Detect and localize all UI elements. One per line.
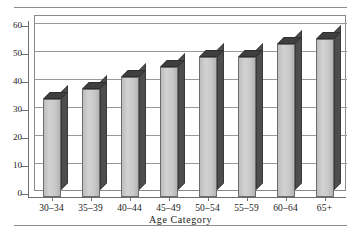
bar-40–44: [121, 70, 139, 197]
x-tick-label-40–44: 40–44: [108, 203, 152, 214]
y-tick-label-60: 60: [0, 21, 22, 30]
bar-front-face: [238, 57, 256, 197]
y-tick-60: [21, 26, 28, 27]
x-tick-40–44: [130, 197, 131, 201]
y-tick-label-0: 0: [0, 189, 22, 198]
x-axis-line: [28, 197, 346, 198]
y-tick-label-50: 50: [0, 49, 22, 58]
x-tick-55–59: [247, 197, 248, 201]
top-divider-rule: [14, 7, 347, 8]
bar-65+: [316, 32, 334, 197]
gridline-60: [35, 23, 347, 24]
x-tick-45–49: [169, 197, 170, 201]
bar-side-face: [334, 25, 341, 190]
y-tick-30: [21, 110, 28, 111]
bar-side-face: [178, 53, 185, 190]
bar-45–49: [160, 60, 178, 197]
x-tick-60–64: [286, 197, 287, 201]
x-tick-50–54: [208, 197, 209, 201]
bar-side-face: [295, 30, 302, 190]
y-tick-40: [21, 82, 28, 83]
bar-side-face: [256, 43, 263, 190]
x-tick-label-55–59: 55–59: [225, 203, 269, 214]
bar-side-face: [61, 85, 68, 190]
y-tick-label-20: 20: [0, 133, 22, 142]
bar-side-face: [139, 63, 146, 190]
bar-front-face: [82, 89, 100, 197]
x-tick-label-60–64: 60–64: [264, 203, 308, 214]
bar-front-face: [277, 44, 295, 197]
x-tick-label-30–34: 30–34: [30, 203, 74, 214]
x-tick-65+: [325, 197, 326, 201]
y-tick-10: [21, 166, 28, 167]
bar-front-face: [121, 77, 139, 197]
bar-front-face: [199, 57, 217, 197]
bar-side-face: [100, 75, 107, 190]
x-tick-label-35–39: 35–39: [69, 203, 113, 214]
y-tick-label-30: 30: [0, 105, 22, 114]
bar-30–34: [43, 92, 61, 197]
x-tick-30–34: [52, 197, 53, 201]
y-tick-0: [21, 194, 28, 195]
y-tick-label-10: 10: [0, 161, 22, 170]
x-tick-label-50–54: 50–54: [186, 203, 230, 214]
bar-50–54: [199, 50, 217, 197]
x-tick-label-65+: 65+: [303, 203, 347, 214]
chart-figure: 0102030405060 30–3435–3940–4445–4950–545…: [0, 0, 361, 235]
bar-side-face: [217, 43, 224, 190]
x-tick-label-45–49: 45–49: [147, 203, 191, 214]
bar-35–39: [82, 82, 100, 197]
bar-front-face: [43, 99, 61, 197]
y-tick-label-40: 40: [0, 77, 22, 86]
y-tick-20: [21, 138, 28, 139]
y-tick-50: [21, 54, 28, 55]
x-axis-title: Age Category: [0, 214, 361, 225]
axis-depth-wall: [28, 21, 35, 197]
x-tick-35–39: [91, 197, 92, 201]
y-axis-line: [28, 21, 29, 197]
bar-front-face: [316, 39, 334, 197]
bar-60–64: [277, 37, 295, 197]
bar-55–59: [238, 50, 256, 197]
bottom-divider-rule: [14, 225, 347, 226]
bar-front-face: [160, 67, 178, 197]
